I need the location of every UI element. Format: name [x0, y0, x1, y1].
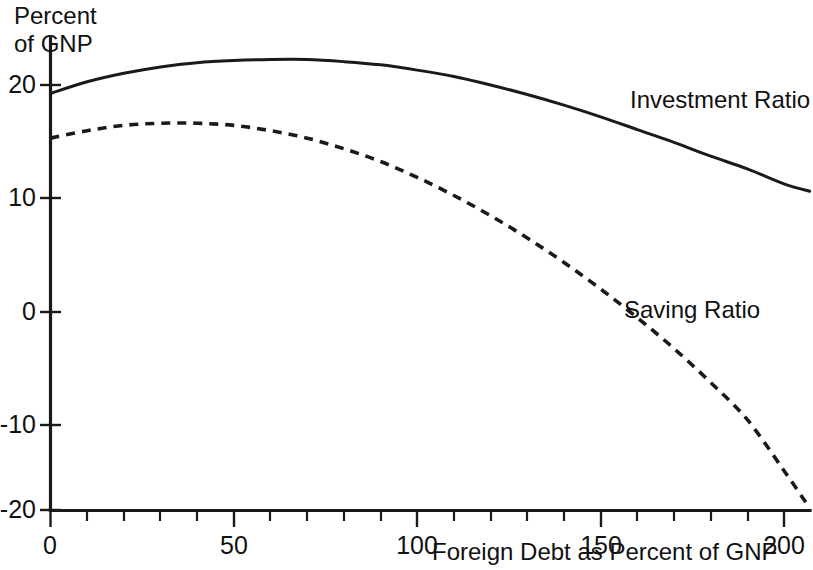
y-axis-title-line1: Percent — [14, 2, 97, 29]
x-axis-title: Foreign Debt as Percent of GNP — [432, 538, 778, 566]
x-axis-ticks — [51, 510, 785, 527]
y-axis-title-line2: of GNP — [14, 30, 93, 57]
y-tick-label-20: 20 — [0, 70, 36, 99]
y-axis-title: Percentof GNP — [14, 2, 97, 58]
series-line-investment-ratio — [51, 59, 810, 191]
series-label-saving-ratio: Saving Ratio — [624, 296, 760, 324]
x-tick-label-50: 50 — [204, 531, 264, 560]
y-tick-label-neg20: -20 — [0, 495, 36, 524]
chart-figure: Percentof GNP 20 10 0 -10 -20 0 50 100 1… — [0, 0, 813, 570]
x-tick-label-0: 0 — [20, 531, 80, 560]
series-group — [51, 59, 810, 508]
y-tick-label-0: 0 — [0, 297, 36, 326]
y-tick-label-neg10: -10 — [0, 410, 36, 439]
y-tick-label-10: 10 — [0, 183, 36, 212]
series-label-investment-ratio: Investment Ratio — [630, 86, 810, 114]
